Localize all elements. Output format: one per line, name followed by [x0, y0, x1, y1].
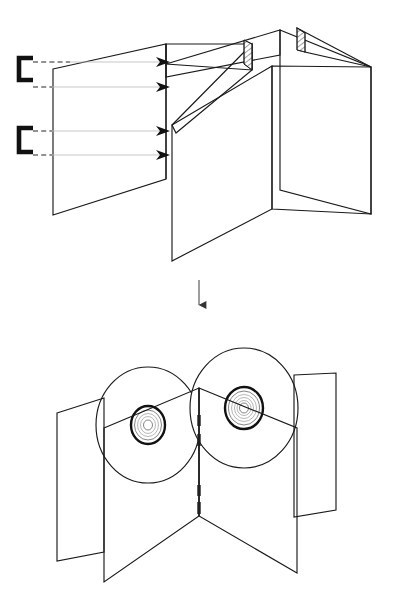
rear-right-long-panel [280, 30, 371, 214]
center-front-panel [172, 66, 272, 261]
rear-fold-triangle [297, 28, 371, 67]
upper-staple [19, 58, 33, 80]
inner-fold-gusset [172, 44, 252, 133]
outer-flap-right [294, 373, 336, 517]
hatch-spine-inner [244, 40, 252, 70]
front-left-panel [53, 44, 166, 215]
lower-staple [19, 128, 33, 152]
lower-figure [57, 348, 336, 582]
disc-right [190, 348, 298, 468]
illustration-canvas: Saddle-stitched multi-panel disc wallet … [0, 0, 398, 616]
insertion-arrowheads [156, 57, 170, 160]
staples-group [19, 58, 33, 152]
upper-figure [19, 28, 371, 261]
assembly-diagram-svg [0, 0, 398, 616]
rear-back-panel [166, 30, 280, 77]
